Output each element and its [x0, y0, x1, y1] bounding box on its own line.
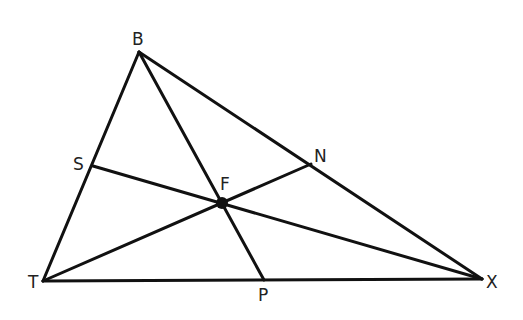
label-X: X: [486, 272, 498, 292]
label-N: N: [314, 146, 327, 166]
triangle-diagram: B T X F S N P: [0, 0, 523, 320]
cevian-SX: [93, 166, 482, 279]
label-B: B: [132, 29, 144, 49]
label-F: F: [220, 174, 230, 194]
label-P: P: [258, 285, 268, 305]
cevian-BP: [139, 52, 264, 280]
point-F-dot: [216, 197, 228, 209]
label-S: S: [73, 154, 84, 174]
label-T: T: [27, 272, 39, 292]
